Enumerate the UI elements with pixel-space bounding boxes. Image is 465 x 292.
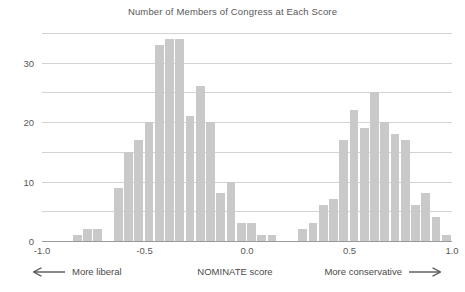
histogram-bar — [134, 140, 143, 241]
x-tick-label: -1.0 — [34, 245, 50, 256]
histogram-bar — [216, 193, 225, 241]
histogram-bar — [319, 205, 328, 241]
histogram-bar — [175, 39, 184, 241]
x-tick-label: -0.5 — [136, 245, 152, 256]
x-tick-label: 1.0 — [445, 245, 458, 256]
histogram-bar — [350, 110, 359, 241]
histogram-bar — [298, 229, 307, 241]
right-arrow-icon — [408, 267, 442, 277]
x-axis-title: NOMINATE score — [197, 265, 272, 279]
histogram-bar — [227, 182, 236, 241]
x-axis-title-label: NOMINATE score — [197, 265, 272, 279]
histogram-bar — [165, 39, 174, 241]
x-tick-label: 0.5 — [343, 245, 356, 256]
axis-caption-row: More liberal NOMINATE score More conserv… — [20, 265, 450, 285]
more-liberal-label: More liberal — [72, 265, 122, 279]
chart-title: Number of Members of Congress at Each Sc… — [0, 6, 465, 17]
histogram-chart: Number of Members of Congress at Each Sc… — [0, 0, 465, 292]
histogram-bar — [339, 140, 348, 241]
bars-layer — [42, 27, 452, 241]
x-tick-label: 0.0 — [240, 245, 253, 256]
histogram-bar — [411, 205, 420, 241]
histogram-bar — [237, 223, 246, 241]
histogram-bar — [155, 45, 164, 241]
y-tick-label: 30 — [23, 57, 34, 68]
x-axis: -1.0-0.50.00.51.0 — [42, 245, 452, 261]
x-axis-line — [42, 241, 452, 242]
histogram-bar — [360, 128, 369, 241]
histogram-bar — [421, 193, 430, 241]
histogram-bar — [391, 134, 400, 241]
histogram-bar — [309, 223, 318, 241]
more-conservative-caption: More conservative — [324, 265, 442, 279]
histogram-bar — [206, 122, 215, 241]
histogram-bar — [329, 199, 338, 241]
histogram-bar — [370, 92, 379, 241]
histogram-bar — [114, 188, 123, 242]
y-tick-label: 20 — [23, 117, 34, 128]
histogram-bar — [186, 116, 195, 241]
y-tick-label: 10 — [23, 176, 34, 187]
histogram-bar — [145, 122, 154, 241]
plot-area — [42, 27, 452, 241]
histogram-bar — [247, 223, 256, 241]
histogram-bar — [401, 140, 410, 241]
histogram-bar — [432, 217, 441, 241]
histogram-bar — [83, 229, 92, 241]
histogram-bar — [196, 86, 205, 241]
histogram-bar — [380, 122, 389, 241]
more-conservative-label: More conservative — [324, 265, 402, 279]
histogram-bar — [124, 152, 133, 241]
more-liberal-caption: More liberal — [32, 265, 122, 279]
histogram-bar — [93, 229, 102, 241]
left-arrow-icon — [32, 267, 66, 277]
